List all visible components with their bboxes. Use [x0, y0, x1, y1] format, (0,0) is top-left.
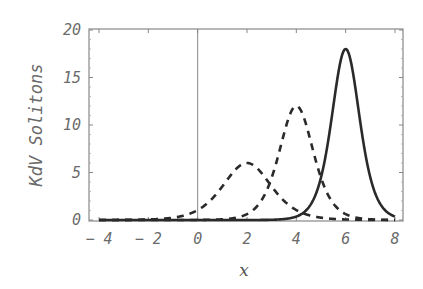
dashed-soliton-curve: [99, 163, 395, 220]
x-tick-label: 2: [242, 230, 251, 248]
x-tick-label: 6: [341, 230, 350, 248]
y-tick-label: 15: [63, 69, 81, 87]
y-tick-label: 10: [63, 116, 81, 134]
y-axis-title: KdV Solitons: [26, 64, 46, 188]
axes-box: [89, 29, 403, 221]
x-tick-label: − 4: [85, 230, 112, 248]
x-tick-label: 8: [390, 230, 399, 248]
y-tick-label: 5: [72, 164, 81, 182]
solid-soliton-curve: [99, 49, 395, 220]
kdv-soliton-chart: − 4− 20246805101520 x KdV Solitons: [0, 0, 423, 289]
x-axis-title: x: [239, 260, 249, 280]
x-tick-label: − 2: [135, 230, 162, 248]
axis-ticks: [89, 29, 403, 221]
soliton-curves: [99, 49, 395, 220]
y-tick-label: 20: [63, 21, 81, 39]
y-tick-label: 0: [72, 211, 81, 229]
x-tick-label: 0: [193, 230, 202, 248]
plot-frame: [89, 29, 403, 221]
x-tick-label: 4: [292, 230, 301, 248]
